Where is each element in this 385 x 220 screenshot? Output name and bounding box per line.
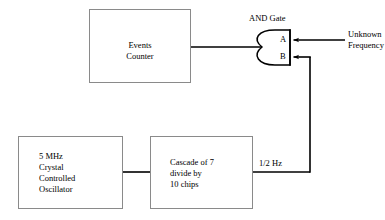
block-cascade-divider-label: Cascade of 7 divide by 10 chips [170, 157, 214, 190]
and-gate-input-a-label: A [280, 35, 286, 44]
block-oscillator-label: 5 MHz Crystal Controlled Oscillator [39, 151, 75, 195]
block-events-counter: Events Counter [89, 9, 191, 83]
half-hz-label: 1/2 Hz [259, 158, 282, 169]
and-gate-title: AND Gate [249, 13, 286, 24]
block-cascade-divider: Cascade of 7 divide by 10 chips [150, 136, 253, 209]
block-oscillator: 5 MHz Crystal Controlled Oscillator [18, 136, 123, 209]
block-events-counter-label: Events Counter [90, 40, 190, 62]
and-gate-input-b-label: B [280, 52, 286, 61]
unknown-frequency-label: Unknown Frequency [348, 29, 384, 51]
block-diagram: Events Counter 5 MHz Crystal Controlled … [0, 0, 385, 220]
